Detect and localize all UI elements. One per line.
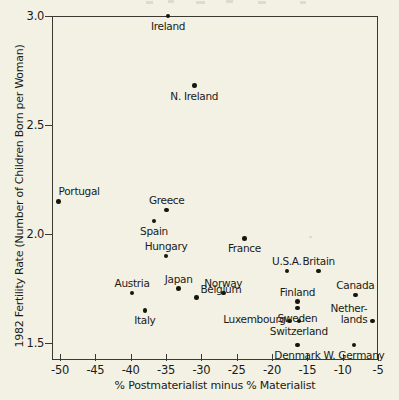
data-point-label: France [228,243,261,254]
y-axis-title: 1982 Fertility Rate (Number of Children … [13,44,26,347]
y-tick-mark [45,343,53,344]
data-point [242,236,247,241]
plot-area [52,16,378,360]
x-axis-title: % Postmaterialist minus % Materialist [52,379,378,392]
scan-artifact [258,1,266,4]
x-tick-label: -40 [111,363,151,377]
x-tick-label: -25 [217,363,257,377]
scan-artifact [146,1,153,4]
x-tick-mark [237,354,238,361]
chart-figure: 1.52.02.53.0 -50-45-40-35-30-25-20-15-10… [0,0,399,400]
data-point-label: Ireland [151,21,185,32]
data-point [194,295,199,300]
x-tick-label: -20 [252,363,292,377]
x-tick-mark [201,354,202,361]
scan-artifact [196,1,205,4]
data-point-label: Japan [165,274,193,285]
scan-artifact [226,0,233,3]
data-point [295,299,300,304]
data-point-label: Finland [280,287,315,298]
data-point [143,308,148,313]
scan-artifact [300,1,306,4]
data-point-label-line: Nether- [330,303,367,314]
data-point-label: Italy [134,315,155,326]
data-point-label: Luxembourg [223,314,285,325]
data-point-label: Austria [115,278,150,289]
data-point [295,306,300,311]
y-axis-title-wrap: 1982 Fertility Rate (Number of Children … [8,16,24,376]
data-point-label: U.S.A. [272,256,302,267]
data-point-label: N. Ireland [170,91,218,102]
data-point [353,293,358,298]
x-tick-label: -10 [323,363,363,377]
data-point [56,199,61,204]
x-tick-mark [166,354,167,361]
data-point-label: Denmark [274,350,320,361]
data-point-label: W. Germany [323,350,384,361]
data-point-label: Canada [336,280,374,291]
data-point-label: Nether-lands [330,303,367,324]
data-point-label: Spain [140,226,168,237]
x-tick-mark [131,354,132,361]
x-tick-mark [272,354,273,361]
data-point-label: Belgium [200,284,241,295]
data-point-label: Hungary [145,241,188,252]
x-tick-mark [95,354,96,361]
data-point-label: Portugal [59,186,100,197]
data-point [192,83,197,88]
x-tick-label: -30 [181,363,221,377]
x-tick-label: -5 [358,363,398,377]
y-tick-mark [45,125,53,126]
data-point-label: Britain [302,256,334,267]
x-tick-label: -45 [75,363,115,377]
data-point-label: Switzerland [270,326,328,337]
scan-artifact [168,0,174,3]
y-tick-mark [45,16,53,17]
data-point-label: Greece [149,195,185,206]
x-tick-label: -15 [287,363,327,377]
data-point [176,286,181,291]
x-tick-label: -35 [146,363,186,377]
data-point-label-line: lands [330,314,367,325]
x-tick-label: -50 [40,363,80,377]
x-tick-mark [60,354,61,361]
y-tick-mark [45,234,53,235]
